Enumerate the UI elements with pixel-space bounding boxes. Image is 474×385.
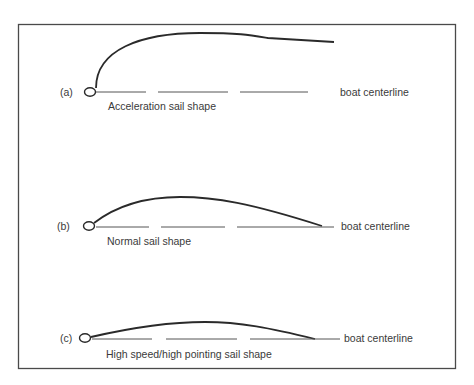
diagram-frame	[19, 25, 456, 369]
panel-b: (b) boat centerline Normal sail shape	[57, 197, 410, 247]
panel-a-caption: Acceleration sail shape	[108, 100, 216, 112]
mast-icon	[80, 334, 91, 342]
sail-shape-diagram: (a) boat centerline Acceleration sail sh…	[0, 0, 474, 385]
panel-a: (a) boat centerline Acceleration sail sh…	[60, 33, 409, 112]
sail-curve-high-speed	[91, 322, 315, 339]
panel-c: (c) boat centerline High speed/high poin…	[60, 322, 413, 360]
sail-curve-acceleration	[96, 33, 334, 88]
panel-a-label: (a)	[60, 86, 73, 98]
centerline-label: boat centerline	[344, 332, 413, 344]
mast-icon	[85, 88, 96, 96]
centerline-label: boat centerline	[341, 220, 410, 232]
panel-b-label: (b)	[57, 220, 70, 232]
panel-b-caption: Normal sail shape	[107, 235, 191, 247]
centerline-label: boat centerline	[340, 86, 409, 98]
sail-curve-normal	[94, 197, 322, 226]
panel-c-label: (c)	[60, 332, 72, 344]
mast-icon	[84, 222, 95, 230]
panel-c-caption: High speed/high pointing sail shape	[106, 348, 272, 360]
